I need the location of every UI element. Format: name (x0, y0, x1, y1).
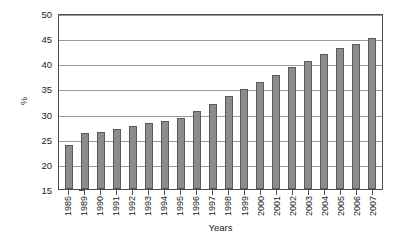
bar-slot (268, 15, 284, 189)
bar-slot (221, 15, 237, 189)
bar[interactable] (129, 126, 137, 189)
x-tick-mark (356, 190, 357, 195)
x-tick-slot (253, 190, 269, 195)
x-label-slot: 2005 (333, 196, 349, 222)
y-tick-label: 25 (26, 134, 52, 145)
x-tick-mark (196, 190, 197, 195)
x-tick-slot (301, 190, 317, 195)
x-tick-mark (164, 190, 165, 195)
x-tick-mark (68, 190, 69, 195)
bar[interactable] (225, 96, 233, 189)
x-label-slot: 1989 (76, 196, 92, 222)
bar[interactable] (288, 67, 296, 189)
x-label-slot: 1996 (188, 196, 204, 222)
bar[interactable] (81, 133, 89, 189)
x-tick-mark (244, 190, 245, 195)
x-label-slot: 1985 (60, 196, 76, 222)
x-tick-slot (156, 190, 172, 195)
x-axis-ticks (58, 190, 383, 195)
x-tick-label: 1995 (175, 196, 185, 216)
x-label-slot: 1997 (204, 196, 220, 222)
bar[interactable] (320, 54, 328, 189)
x-tick-mark (212, 190, 213, 195)
bar[interactable] (304, 61, 312, 189)
x-label-slot: 1990 (92, 196, 108, 222)
x-tick-mark (180, 190, 181, 195)
x-tick-label: 1990 (95, 196, 105, 216)
x-tick-mark (132, 190, 133, 195)
x-label-slot: 1994 (156, 196, 172, 222)
x-label-slot: 1998 (220, 196, 236, 222)
bar-slot (252, 15, 268, 189)
x-tick-label: 1992 (127, 196, 137, 216)
bar[interactable] (336, 48, 344, 189)
bar[interactable] (193, 111, 201, 189)
x-tick-mark (260, 190, 261, 195)
bar[interactable] (352, 44, 360, 189)
bar[interactable] (209, 104, 217, 189)
bar-slot (77, 15, 93, 189)
x-label-slot: 1995 (172, 196, 188, 222)
bar[interactable] (272, 75, 280, 189)
x-tick-mark (100, 190, 101, 195)
y-axis-ticks: 5045403530252015 (26, 14, 52, 190)
bar[interactable] (161, 121, 169, 189)
x-label-slot: 2007 (365, 196, 381, 222)
x-tick-label: 1999 (240, 196, 250, 216)
bar-slot (61, 15, 77, 189)
x-tick-mark (308, 190, 309, 195)
bar[interactable] (256, 82, 264, 189)
bar-slot (316, 15, 332, 189)
y-tick-label: 30 (26, 109, 52, 120)
x-tick-slot (92, 190, 108, 195)
x-tick-slot (188, 190, 204, 195)
x-label-slot: 2004 (317, 196, 333, 222)
bar[interactable] (97, 132, 105, 189)
x-tick-mark (324, 190, 325, 195)
x-tick-slot (285, 190, 301, 195)
bar[interactable] (65, 145, 73, 189)
x-label-slot: 1991 (108, 196, 124, 222)
bar-slot (125, 15, 141, 189)
x-tick-label: 2006 (352, 196, 362, 216)
x-tick-mark (116, 190, 117, 195)
x-tick-label: 2004 (320, 196, 330, 216)
y-tick-label: 15 (26, 185, 52, 196)
y-tick-label: 40 (26, 59, 52, 70)
y-tick-label: 45 (26, 34, 52, 45)
x-label-slot: 2003 (301, 196, 317, 222)
bar-slot (236, 15, 252, 189)
bar-slot (284, 15, 300, 189)
x-label-slot: 2002 (285, 196, 301, 222)
x-tick-slot (172, 190, 188, 195)
x-tick-slot (124, 190, 140, 195)
x-tick-slot (108, 190, 124, 195)
x-tick-label: 2007 (368, 196, 378, 216)
x-axis-title: Years (58, 222, 383, 233)
bar[interactable] (240, 89, 248, 189)
x-tick-slot (269, 190, 285, 195)
x-label-slot: 2000 (253, 196, 269, 222)
x-tick-slot (60, 190, 76, 195)
x-tick-mark (292, 190, 293, 195)
bar[interactable] (368, 38, 376, 189)
x-tick-label: 2003 (304, 196, 314, 216)
x-tick-mark (148, 190, 149, 195)
bar[interactable] (145, 123, 153, 189)
x-label-slot: 1999 (237, 196, 253, 222)
x-tick-label: 1991 (111, 196, 121, 216)
x-tick-slot (76, 190, 92, 195)
x-tick-label: 2000 (256, 196, 266, 216)
bar[interactable] (113, 129, 121, 189)
bar-slot (332, 15, 348, 189)
x-tick-label: 1994 (159, 196, 169, 216)
bar[interactable] (177, 118, 185, 189)
bar-slot (348, 15, 364, 189)
y-tick-label: 35 (26, 84, 52, 95)
bar-slot (141, 15, 157, 189)
x-label-slot: 2006 (349, 196, 365, 222)
bar-slot (300, 15, 316, 189)
bar-series (59, 15, 382, 189)
x-tick-slot (237, 190, 253, 195)
x-tick-mark (372, 190, 373, 195)
